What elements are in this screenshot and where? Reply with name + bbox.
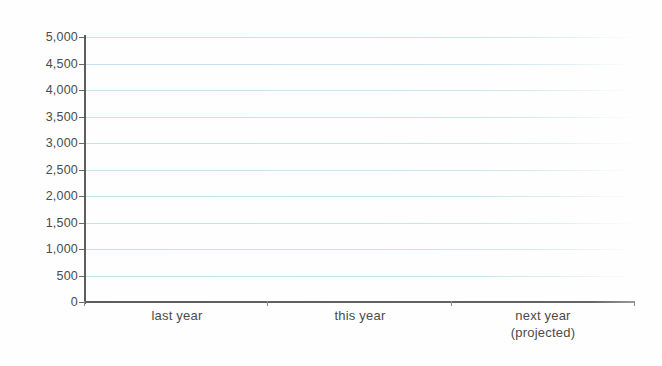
- x-axis-labels: last yearthis yearnext year(projected): [85, 307, 635, 355]
- y-axis-tick-label: 4,000: [22, 84, 78, 96]
- y-axis-tick: [79, 90, 84, 91]
- y-axis-tick: [79, 223, 84, 224]
- y-axis-tick-label: 3,500: [22, 111, 78, 123]
- x-axis-category-label: next year(projected): [511, 307, 575, 341]
- y-axis-tick: [79, 249, 84, 250]
- y-axis-tick-label: 1,500: [22, 217, 78, 229]
- x-axis-category-label-text: this year: [335, 308, 386, 323]
- gridline: [85, 37, 635, 38]
- gridline: [85, 117, 635, 118]
- y-axis-tick: [79, 37, 84, 38]
- chart-container: 5,0004,5004,0003,5003,0002,5002,0001,500…: [0, 0, 662, 366]
- y-axis-labels: 5,0004,5004,0003,5003,0002,5002,0001,500…: [20, 37, 78, 302]
- x-axis-category-label-text: next year: [515, 308, 570, 323]
- y-axis-tick-label: 4,500: [22, 58, 78, 70]
- y-axis-tick-label: 2,500: [22, 164, 78, 176]
- x-axis-category-label: last year: [152, 307, 203, 324]
- gridline: [85, 276, 635, 277]
- y-axis-tick: [79, 276, 84, 277]
- x-axis-tick: [267, 301, 268, 306]
- y-axis-line: [84, 35, 86, 304]
- gridline: [85, 249, 635, 250]
- gridline: [85, 143, 635, 144]
- y-axis-tick-label: 3,000: [22, 137, 78, 149]
- x-axis-tick: [451, 301, 452, 306]
- y-axis-tick: [79, 117, 84, 118]
- x-axis-line: [84, 301, 635, 303]
- x-axis-tick: [634, 301, 635, 306]
- y-axis-tick: [79, 64, 84, 65]
- x-axis-category-sublabel: (projected): [511, 324, 575, 341]
- gridline: [85, 170, 635, 171]
- y-axis-tick-label: 500: [22, 270, 78, 282]
- y-axis-tick: [79, 196, 84, 197]
- y-axis-tick-label: 0: [22, 296, 78, 308]
- plot-area: [85, 37, 635, 302]
- gridline: [85, 90, 635, 91]
- y-axis-tick-label: 5,000: [22, 31, 78, 43]
- x-axis-tick: [84, 301, 85, 306]
- y-axis-tick-label: 2,000: [22, 190, 78, 202]
- gridline: [85, 196, 635, 197]
- x-axis-category-label-text: last year: [152, 308, 203, 323]
- y-axis-tick: [79, 143, 84, 144]
- gridline: [85, 64, 635, 65]
- x-axis-category-label: this year: [335, 307, 386, 324]
- y-axis-tick-label: 1,000: [22, 243, 78, 255]
- y-axis-tick: [79, 170, 84, 171]
- gridline: [85, 223, 635, 224]
